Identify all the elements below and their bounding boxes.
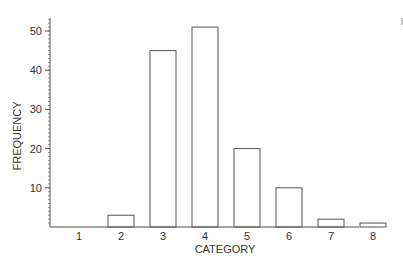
x-tick-label: 2 (118, 230, 124, 242)
x-tick-label: 3 (160, 230, 166, 242)
bar-category-6 (276, 188, 302, 227)
bar-chart: 1020304050 12345678 CATEGORY FREQUENCY (0, 0, 403, 272)
x-tick-label: 7 (328, 230, 334, 242)
y-tick-label: 20 (30, 143, 42, 155)
y-tick-label: 10 (30, 182, 42, 194)
y-tick-label: 50 (30, 25, 42, 37)
y-tick-label: 40 (30, 64, 42, 76)
x-axis-tick-labels: 12345678 (76, 230, 376, 242)
y-axis-title: FREQUENCY (11, 101, 23, 171)
bar-category-5 (234, 149, 260, 227)
bar-category-2 (108, 215, 134, 227)
x-tick-label: 1 (76, 230, 82, 242)
bar-category-3 (150, 51, 176, 227)
x-tick-label: 8 (370, 230, 376, 242)
x-tick-label: 4 (202, 230, 208, 242)
bar-category-7 (318, 219, 344, 227)
y-axis-major-ticks: 1020304050 (30, 25, 50, 194)
y-tick-label: 30 (30, 103, 42, 115)
x-axis-title: CATEGORY (195, 243, 256, 255)
bar-category-8 (360, 223, 386, 227)
bars (108, 27, 386, 227)
x-tick-label: 6 (286, 230, 292, 242)
bar-category-4 (192, 27, 218, 227)
x-tick-label: 5 (244, 230, 250, 242)
